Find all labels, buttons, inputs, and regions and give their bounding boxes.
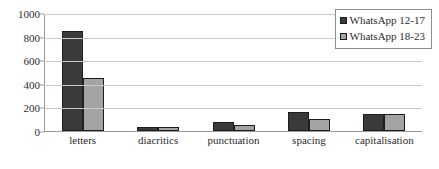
x-axis-line [44, 131, 422, 132]
x-axis-label-spacing: spacing [271, 134, 346, 147]
y-axis-tick-label: 400 [24, 79, 41, 90]
bar-capitalisation-1 [363, 114, 384, 131]
bar-punctuation-1 [213, 122, 234, 131]
x-axis-label-punctuation: punctuation [196, 134, 271, 147]
gridline [44, 108, 422, 109]
x-axis-label-capitalisation: capitalisation [347, 134, 422, 147]
legend-item-1[interactable]: WhatsApp 12-17 [340, 13, 425, 29]
bar-spacing-1 [288, 112, 309, 131]
gridline [44, 61, 422, 62]
y-axis-labels: 02004006008001000 [0, 14, 40, 132]
y-axis-tick-label: 800 [24, 32, 41, 43]
gridline [44, 85, 422, 86]
y-axis-tick-label: 1000 [18, 9, 40, 20]
bar-chart: 02004006008001000 lettersdiacriticspunct… [0, 0, 439, 169]
square-dark-icon [340, 17, 347, 24]
bar-letters-2 [83, 78, 104, 131]
y-axis-tick-label: 600 [24, 56, 41, 67]
bar-diacritics-1 [137, 127, 158, 131]
x-axis-labels: lettersdiacriticspunctuationspacingcapit… [45, 134, 422, 147]
y-axis-tick-label: 200 [24, 103, 41, 114]
chart-legend: WhatsApp 12-17WhatsApp 18-23 [335, 9, 432, 49]
x-axis-label-letters: letters [45, 134, 120, 147]
bar-spacing-2 [309, 119, 330, 131]
bar-group-punctuation [196, 14, 271, 131]
legend-label: WhatsApp 12-17 [350, 13, 425, 29]
bar-group-letters [45, 14, 120, 131]
square-light-icon [340, 33, 347, 40]
legend-item-2[interactable]: WhatsApp 18-23 [340, 29, 425, 45]
bar-punctuation-2 [234, 125, 255, 131]
legend-label: WhatsApp 18-23 [350, 29, 425, 45]
bar-diacritics-2 [158, 127, 179, 131]
bar-capitalisation-2 [384, 114, 405, 131]
x-axis-label-diacritics: diacritics [120, 134, 195, 147]
bar-group-diacritics [120, 14, 195, 131]
bar-letters-1 [62, 31, 83, 131]
